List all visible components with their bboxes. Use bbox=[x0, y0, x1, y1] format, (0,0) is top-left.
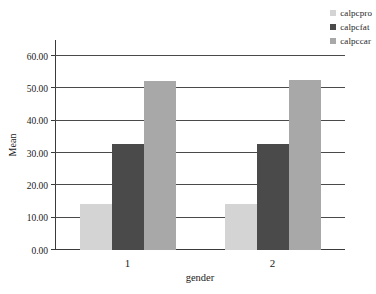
legend-label: calpcfat bbox=[340, 22, 369, 32]
bars-layer bbox=[55, 40, 345, 250]
x-axis-title: gender bbox=[55, 272, 345, 283]
y-tick-label: 10.00 bbox=[27, 213, 48, 223]
legend-item: calpcpro bbox=[330, 7, 372, 19]
y-tick-label: 60.00 bbox=[27, 52, 48, 62]
bar-group bbox=[80, 40, 176, 250]
y-axis-title: Mean bbox=[7, 134, 18, 157]
bar bbox=[80, 204, 112, 250]
bar bbox=[257, 144, 289, 250]
bar bbox=[144, 81, 176, 250]
plot-area: 0.0010.0020.0030.0040.0050.0060.00 12 bbox=[55, 40, 345, 250]
y-tick-label: 0.00 bbox=[31, 246, 48, 256]
y-tick-label: 20.00 bbox=[27, 181, 48, 191]
x-tick-label: 2 bbox=[270, 257, 276, 269]
bar bbox=[225, 204, 257, 250]
y-tick-label: 40.00 bbox=[27, 116, 48, 126]
y-tick-label: 30.00 bbox=[27, 149, 48, 159]
legend-swatch-icon bbox=[330, 10, 336, 16]
legend-swatch-icon bbox=[330, 24, 336, 30]
x-tick-label: 1 bbox=[125, 257, 131, 269]
bar-group bbox=[225, 40, 321, 250]
bar-chart: calpcprocalpcfatcalpccar Mean 0.0010.002… bbox=[0, 0, 376, 294]
bar bbox=[289, 80, 321, 250]
legend-label: calpcpro bbox=[340, 8, 372, 18]
bar bbox=[112, 144, 144, 250]
y-tick-label: 50.00 bbox=[27, 84, 48, 94]
legend-item: calpcfat bbox=[330, 21, 369, 33]
